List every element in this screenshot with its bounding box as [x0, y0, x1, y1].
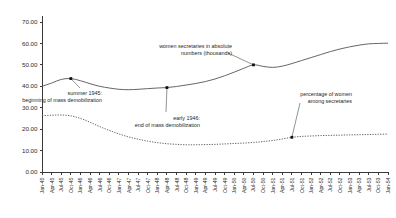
x-axis-tick-label: Apr-46	[87, 177, 93, 193]
annotation-label-summer-1945: summer 1945:beginning of mass demobiliza…	[22, 90, 102, 103]
x-axis-tick-label: Oct-47	[145, 177, 151, 193]
x-axis-tick-label: Apr-53	[356, 177, 362, 193]
annotations: summer 1945:beginning of mass demobiliza…	[22, 43, 352, 139]
x-axis-tick-label: Oct-48	[183, 177, 189, 193]
x-axis-tick-label: Oct-53	[375, 177, 381, 193]
line-chart: 0.0010.0020.0030.0040.0050.0060.0070.00 …	[0, 0, 396, 218]
x-axis-tick-label: Apr-48	[164, 177, 170, 193]
annotation-marker	[290, 136, 293, 139]
x-axis-tick-label: Apr-52	[318, 177, 324, 193]
annotation-line: women secretaries in absolute	[158, 43, 232, 49]
x-axis-tick-label: Apr-50	[241, 177, 247, 193]
annotation-line: early 1946:	[173, 115, 200, 121]
y-axis-tick-label: 10.00	[22, 147, 38, 154]
x-axis-tick-label: Apr-51	[279, 177, 285, 193]
x-axis-tick-label: Jan-54	[385, 177, 391, 193]
y-axis-tick-label: 70.00	[22, 18, 38, 25]
x-axis-tick-label: Jan-52	[308, 177, 314, 193]
x-axis-tick-label: Jan-46	[77, 177, 83, 193]
annotation-line: beginning of mass demobilization	[22, 97, 102, 103]
annotation-label-secretaries-absolute: women secretaries in absolutenumbers (th…	[158, 43, 232, 56]
x-axis-tick-label: Jan-47	[116, 177, 122, 193]
x-axis-tick-label: Oct-49	[222, 177, 228, 193]
x-axis-tick-label: Apr-49	[202, 177, 208, 193]
x-axis-tick-label: Jul-46	[97, 177, 103, 191]
annotation-line: end of mass demobilization	[135, 122, 200, 128]
x-axis-tick-label: Oct-52	[337, 177, 343, 193]
annotation-line: numbers (thousands)	[181, 50, 232, 56]
y-axis-tick-label: 30.00	[22, 104, 38, 111]
y-axis-tick-label: 0.00	[25, 168, 38, 175]
series-line-percentage	[42, 115, 388, 145]
x-axis-tick-label: Jul-51	[289, 177, 295, 191]
x-axis-tick-label: Oct-50	[260, 177, 266, 193]
annotation-marker	[69, 77, 72, 80]
x-axis-tick-label: Jul-49	[212, 177, 218, 191]
x-axis-tick-label: Jul-50	[250, 177, 256, 191]
y-axis-tick-label: 40.00	[22, 82, 38, 89]
x-axis-tick-label: Oct-51	[299, 177, 305, 193]
x-axis-tick-label: Apr-47	[126, 177, 132, 193]
x-axis-tick-label: Apr-45	[49, 177, 55, 193]
annotation-label-early-1946: early 1946:end of mass demobilization	[135, 115, 200, 128]
annotation-marker	[252, 63, 255, 66]
annotation-marker	[166, 86, 169, 89]
annotation-label-percentage-women: percentage of womenamong secretaries	[300, 91, 352, 104]
chart-container: 0.0010.0020.0030.0040.0050.0060.0070.00 …	[0, 0, 396, 218]
y-axis-tick-label: 50.00	[22, 61, 38, 68]
x-axis-tick-label: Jan-51	[270, 177, 276, 193]
x-axis-tick-label: Jan-45	[39, 177, 45, 193]
x-axis-tick-label: Oct-45	[68, 177, 74, 193]
x-axis-tick-label: Jul-48	[174, 177, 180, 191]
annotation-line: summer 1945:	[68, 90, 102, 96]
x-axis-tick-label: Jul-45	[58, 177, 64, 191]
x-axis-tick-label: Jul-47	[135, 177, 141, 191]
x-axis-tick-label: Jul-52	[327, 177, 333, 191]
y-axis-tick-label: 60.00	[22, 40, 38, 47]
y-axis: 0.0010.0020.0030.0040.0050.0060.0070.00	[22, 16, 42, 175]
x-axis: Jan-45Apr-45Jul-45Oct-45Jan-46Apr-46Jul-…	[39, 172, 391, 193]
y-axis-tick-label: 20.00	[22, 125, 38, 132]
x-axis-tick-label: Jan-49	[193, 177, 199, 193]
x-axis-tick-label: Jan-53	[347, 177, 353, 193]
x-axis-tick-label: Oct-46	[106, 177, 112, 193]
annotation-line: percentage of women	[300, 91, 352, 97]
x-axis-tick-label: Jul-53	[366, 177, 372, 191]
x-axis-tick-label: Jan-50	[231, 177, 237, 193]
annotation-line: among secretaries	[308, 98, 353, 104]
x-axis-tick-label: Jan-48	[154, 177, 160, 193]
